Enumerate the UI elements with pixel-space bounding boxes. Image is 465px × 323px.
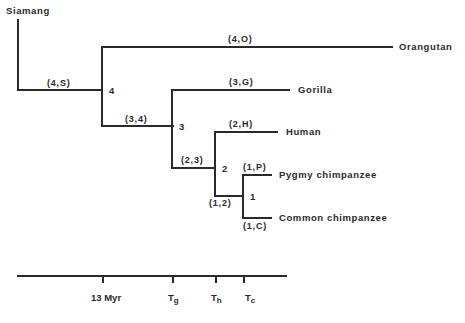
tick-label-th-sub: h [217,296,222,305]
tick-label-13myr-text: 13 Myr [91,292,121,303]
taxon-human: Human [286,126,321,137]
node-1-label: 1 [250,191,255,202]
node-2-vertical [214,131,216,197]
branch-3-4 [101,125,174,127]
edge-label-3-4: (3,4) [125,114,148,124]
branch-siamang-vertical [17,19,19,91]
node-3-vertical [171,89,173,169]
tick-tc [243,276,245,283]
tick-13myr [102,276,104,283]
branch-2-3 [171,167,216,169]
branch-1-2 [214,195,243,197]
edge-label-2-3: (2,3) [181,155,204,165]
node-3-label: 3 [179,121,184,132]
taxon-orangutan: Orangutan [399,41,452,52]
tick-label-tg-main: T [168,292,174,303]
node-4-vertical [101,46,103,127]
branch-siamang-horizontal [17,89,103,91]
taxon-siamang: Siamang [6,5,50,16]
branch-orangutan [101,46,393,48]
taxon-common-chimpanzee: Common chimpanzee [279,212,387,223]
tick-th [215,276,217,283]
tick-label-tg: Tg [168,292,179,303]
edge-label-1-p: (1,P) [243,162,267,172]
tick-tg [172,276,174,283]
edge-label-4-o: (4,O) [228,34,253,44]
tick-label-tc-main: T [245,292,251,303]
tick-label-13myr: 13 Myr [91,292,121,303]
tick-label-tc: Tc [245,292,255,303]
edge-label-2-h: (2,H) [229,119,253,129]
branch-human [214,131,278,133]
tick-label-tg-sub: g [174,296,179,305]
tick-label-th-main: T [211,292,217,303]
edge-label-1-2: (1,2) [209,198,232,208]
time-axis [17,275,287,277]
branch-gorilla [171,89,290,91]
branch-common-chimpanzee [242,217,272,219]
edge-label-1-c: (1,C) [243,221,267,231]
node-4-label: 4 [109,85,114,96]
node-2-label: 2 [222,163,227,174]
edge-label-4-s: (4,S) [47,78,71,88]
node-1-vertical [242,174,244,219]
branch-pygmy-chimpanzee [242,174,272,176]
edge-label-3-g: (3,G) [229,77,254,87]
taxon-gorilla: Gorilla [298,84,332,95]
tick-label-tc-sub: c [251,296,255,305]
tick-label-th: Th [211,292,222,303]
taxon-pygmy-chimpanzee: Pygmy chimpanzee [279,169,377,180]
